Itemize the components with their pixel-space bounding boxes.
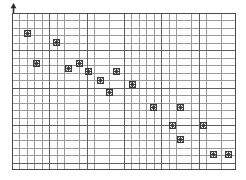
data-point (106, 89, 113, 96)
scatter-plot-figure (0, 0, 246, 180)
data-point (225, 151, 232, 158)
data-point (150, 104, 157, 111)
data-points-layer (12, 13, 236, 170)
data-point (177, 136, 184, 143)
data-point (169, 122, 176, 129)
data-point (129, 81, 136, 88)
data-point (65, 65, 72, 72)
data-point (177, 104, 184, 111)
plot-grid-panel (12, 13, 236, 170)
data-point (210, 151, 217, 158)
data-point (53, 39, 60, 46)
data-point (200, 122, 207, 129)
data-point (113, 68, 120, 75)
data-point (24, 30, 31, 37)
data-point (97, 77, 104, 84)
data-point (76, 60, 83, 67)
data-point (33, 60, 40, 67)
data-point (85, 68, 92, 75)
